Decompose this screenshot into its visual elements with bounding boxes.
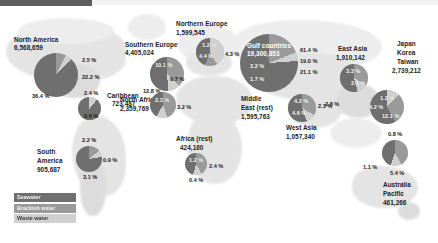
pct-caribbean-waste: 0.6 % (84, 113, 98, 119)
region-label-japan: Japan (397, 40, 416, 48)
pct-japan-brackish: 4.2 % (369, 104, 383, 110)
region-label-africa-rest: Africa (rest) (176, 135, 213, 143)
region-label-north-america: North America (14, 36, 58, 44)
pct-gulf-seawater: 61.4 % (300, 47, 317, 53)
region-value-middle-east: 1,595,763 (241, 113, 270, 121)
region-label-southern-europe: Southern Europe (125, 41, 178, 49)
region-value-south-america: 905,687 (37, 166, 60, 174)
region-label-west-asia: West Asia (286, 124, 317, 132)
pct-southern-europe-waste: 9.7 % (170, 76, 184, 82)
pct-australia-brackish: 1.1 % (363, 164, 377, 170)
pct-caribbean-brackish: 2.4 % (84, 90, 98, 96)
pct-southern-europe-seawater: 10.1 % (155, 62, 172, 68)
legend: Seawater Brackish water Waste water (14, 193, 76, 225)
region-label-gulf-countries: Gulf countries (247, 42, 291, 50)
pct-northern-europe-brackish: 4.4 % (199, 53, 213, 59)
pct-north-america-brackish: 22.2 % (82, 74, 99, 80)
region-value-west-asia: 1,057,340 (286, 133, 315, 141)
region-value-australia-pacific: 461,266 (383, 199, 406, 207)
region-label-east-asia: East Asia (338, 45, 367, 53)
legend-label-brackish: Brackish water (17, 205, 55, 211)
pct-gulf-inner-a: 3.2 % (250, 63, 264, 69)
region-value-southern-europe: 4,405,024 (125, 49, 154, 57)
legend-label-seawater: Seawater (17, 194, 41, 200)
region-label-middle-east-1: Middle (241, 95, 262, 103)
region-value-east-asia: 1,910,142 (336, 54, 365, 62)
region-value-northern-europe: 1,599,545 (176, 29, 205, 37)
region-label-south-america-1: South (37, 148, 55, 156)
region-value-gulf-countries: 19,300,853 (247, 50, 279, 58)
pie-south-america (76, 146, 102, 172)
pct-east-asia-waste: 2.8 % (325, 101, 339, 107)
legend-item-brackish: Brackish water (14, 204, 76, 213)
pct-west-asia-brackish: 4.2 % (294, 98, 308, 104)
pct-north-africa-waste: 3.2 % (177, 104, 191, 110)
pct-north-america-seawater: 36.4 % (32, 93, 49, 99)
region-label-korea: Korea (397, 49, 415, 57)
pct-australia-seawater: 0.8 % (388, 131, 402, 137)
region-label-pacific: Pacific (383, 190, 404, 198)
region-label-middle-east-2: East (rest) (241, 104, 273, 112)
region-value-north-africa: 2,359,769 (120, 105, 149, 113)
pct-japan-waste: 12.1 % (382, 113, 399, 119)
pct-gulf-inner-b: 1.7 % (250, 76, 264, 82)
pct-gulf-waste: 21.1 % (300, 69, 317, 75)
pct-west-asia-seawater: 4.6 % (292, 110, 306, 116)
pct-africa-rest-waste: 0.4 % (189, 177, 203, 183)
pie-north-america (34, 53, 78, 97)
pie-australia-pacific (382, 140, 408, 166)
pct-australia-waste: 5.4 % (390, 170, 404, 176)
region-value-japan-korea-taiwan: 2,739,212 (392, 67, 421, 75)
pct-northern-europe-seawater: 1.2 % (202, 42, 216, 48)
region-value-africa-rest: 424,160 (180, 144, 203, 152)
pct-south-america-seawater: 3.1 % (83, 174, 97, 180)
region-label-south-america-2: America (37, 157, 63, 165)
pct-east-asia-seawater: 3.3 % (346, 68, 360, 74)
pct-africa-rest-seawater: 1.2 % (189, 157, 203, 163)
legend-item-seawater: Seawater (14, 193, 76, 202)
pct-south-america-waste: 0.9 % (103, 157, 117, 163)
legend-item-wastewater: Waste water (14, 214, 76, 223)
pct-north-america-waste: 2.5 % (82, 57, 96, 63)
pie-north-africa (150, 92, 176, 118)
infographic-world-map: North America 6,568,659 2.5 % 22.2 % 36.… (0, 0, 438, 243)
landmass-southeast-asia (330, 118, 382, 148)
pct-north-africa-seawater: 2.3 % (155, 97, 169, 103)
legend-label-wastewater: Waste water (17, 215, 48, 221)
region-label-australia: Australia (383, 181, 411, 189)
landmass-greenland (128, 14, 166, 40)
pct-africa-rest-brackish: 2.4 % (209, 163, 223, 169)
pct-northern-europe-waste: 4.3 % (225, 51, 239, 57)
top-light-bar (92, 0, 438, 5)
region-label-taiwan: Taiwan (397, 58, 419, 66)
region-value-north-america: 6,568,659 (14, 44, 43, 52)
region-label-northern-europe: Northern Europe (176, 20, 228, 28)
pct-south-america-brackish: 2.2 % (82, 137, 96, 143)
pct-east-asia-brackish: 2.1 % (351, 80, 365, 86)
pct-gulf-brackish: 19.0 % (300, 58, 317, 64)
pct-japan-seawater: 1.2 % (380, 95, 394, 101)
